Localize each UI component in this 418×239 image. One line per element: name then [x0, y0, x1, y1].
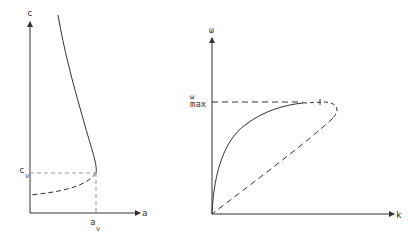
- cv-label-sub: ν: [25, 172, 29, 180]
- av-label-sub: ν: [96, 225, 100, 233]
- right-y-axis-label: ω: [209, 26, 214, 35]
- left-dashed-curve: [30, 173, 96, 195]
- cv-label-main: c: [19, 165, 24, 175]
- left-y-axis-label: c: [27, 8, 32, 18]
- diagram-canvas: c a c ν a ν ω k ω max: [0, 0, 418, 239]
- right-diagram: ω k ω max: [190, 26, 402, 220]
- av-label-main: a: [90, 217, 95, 227]
- left-solid-curve: [58, 15, 96, 173]
- left-diagram: c a c ν a ν: [19, 8, 147, 233]
- right-x-axis-label: k: [396, 210, 402, 220]
- right-solid-curve: [212, 103, 303, 214]
- left-x-axis-label: a: [142, 208, 147, 218]
- right-dashed-diagonal: [212, 118, 333, 214]
- wmax-label-sub: max: [190, 99, 207, 109]
